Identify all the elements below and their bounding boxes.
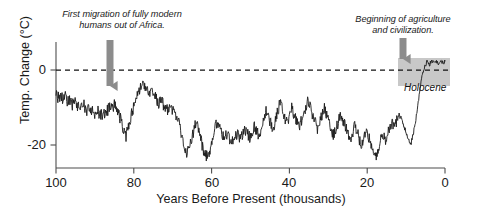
x-tick-label-60: 60 xyxy=(192,175,232,190)
x-tick-label-0: 0 xyxy=(425,175,465,190)
agriculture-annotation-text: Beginning of agriculture and civilizatio… xyxy=(330,14,476,36)
x-tick-label-80: 80 xyxy=(114,175,154,190)
x-tick-label-20: 20 xyxy=(347,175,387,190)
paleoclimate-temperature-chart: First migration of fully modern humans o… xyxy=(0,0,480,216)
y-axis-title: Temp. Change (°C) xyxy=(18,0,32,145)
holocene-label: Holocene xyxy=(404,82,446,93)
x-tick-label-40: 40 xyxy=(269,175,309,190)
migration-annotation-text: First migration of fully modern humans o… xyxy=(36,9,208,31)
x-axis-title: Years Before Present (thousands) xyxy=(56,192,446,206)
x-tick-label-100: 100 xyxy=(36,175,76,190)
temperature-series-line xyxy=(56,60,445,161)
